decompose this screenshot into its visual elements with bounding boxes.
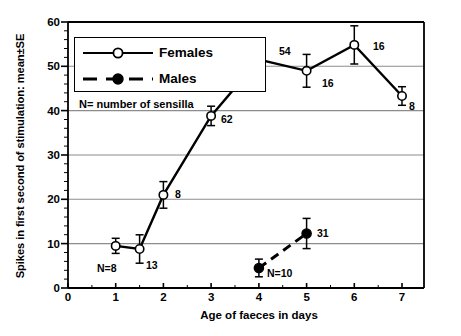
point-label: 8: [409, 100, 415, 112]
grid-lines: [68, 66, 424, 243]
point-label: 62: [221, 113, 233, 125]
point-label: 16: [373, 40, 385, 52]
legend-key-females: [81, 43, 155, 63]
chart-figure: Spikes in first second of stimulation: m…: [0, 0, 461, 336]
legend-key-males: [81, 69, 155, 89]
legend-item-males: Males: [75, 65, 265, 92]
point-label: N=10: [267, 267, 292, 279]
point-label: N=8: [97, 262, 117, 274]
point-label: 8: [175, 188, 181, 200]
y-axis-major-ticks: [61, 22, 68, 288]
legend-label-males: Males: [159, 71, 197, 86]
legend-item-females: Females: [75, 39, 265, 66]
point-label: 13: [146, 259, 158, 271]
legend-label-females: Females: [159, 45, 213, 60]
point-label: 54: [279, 45, 291, 57]
chart-legend: Females Males: [74, 37, 266, 92]
point-label: 16: [322, 77, 334, 89]
point-label: 31: [317, 227, 329, 239]
sensilla-note: N= number of sensilla: [78, 98, 195, 110]
